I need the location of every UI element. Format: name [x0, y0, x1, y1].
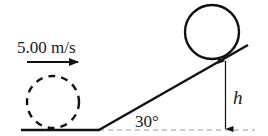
initial-ball-dashed-circle	[27, 76, 79, 128]
height-label: h	[233, 87, 243, 108]
final-ball-circle	[185, 5, 239, 59]
velocity-label: 5.00 m/s	[17, 38, 76, 57]
diagram-canvas: 5.00 m/s h 30°	[0, 0, 268, 136]
angle-label: 30°	[135, 112, 159, 131]
physics-diagram: 5.00 m/s h 30°	[0, 0, 268, 136]
